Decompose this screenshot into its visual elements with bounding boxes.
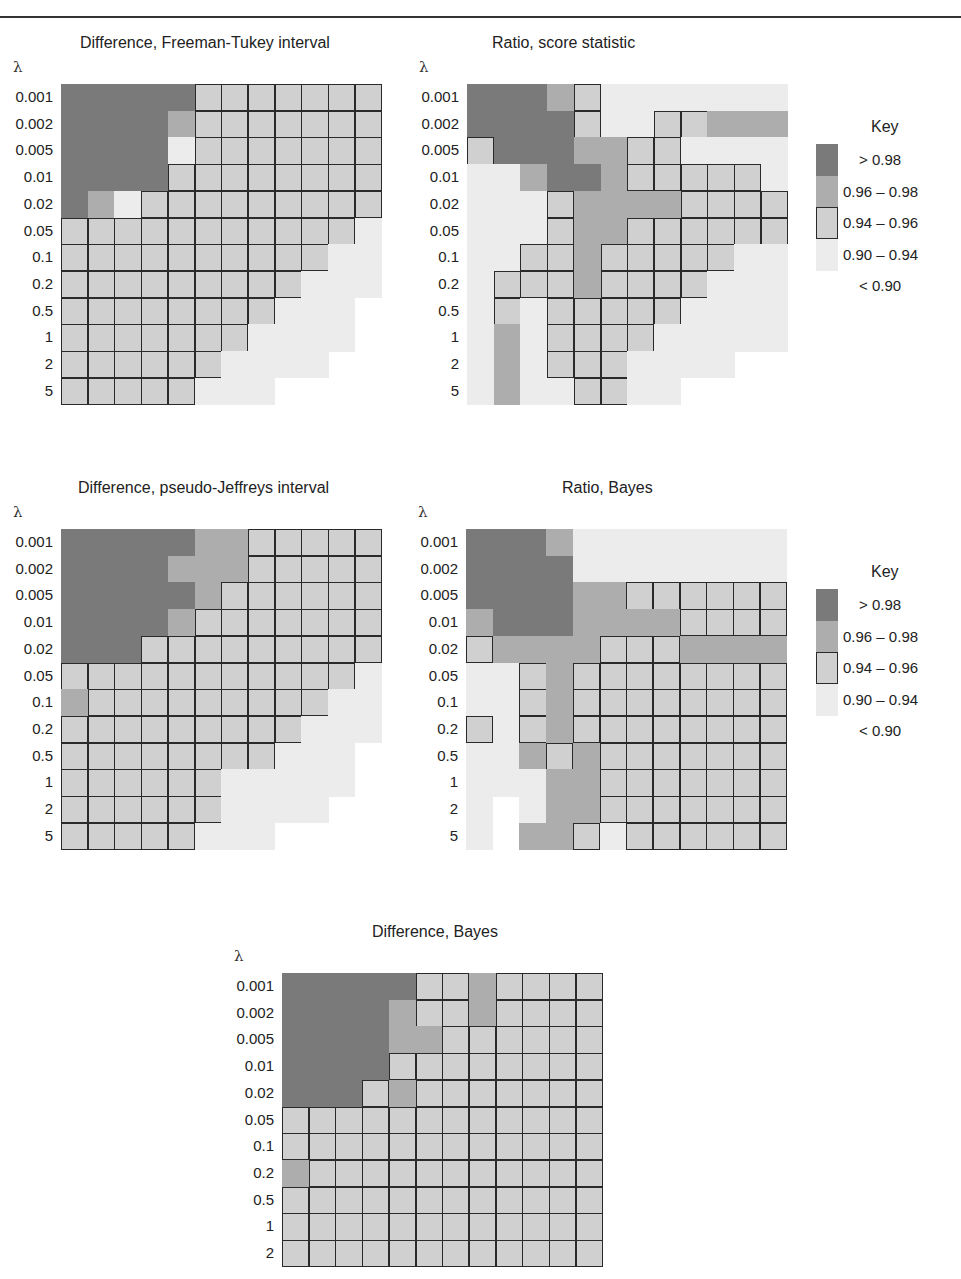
heatmap-cell [141,769,168,796]
heatmap-cell [600,582,627,609]
heatmap-cell [355,663,382,690]
heatmap-cell [328,191,355,218]
heatmap-cell [282,1213,309,1240]
y-tick-label: 0.002 [1,115,53,132]
heatmap-cell [519,636,546,663]
y-tick-label: 0.5 [1,302,53,319]
heatmap-cell [282,1187,309,1214]
heatmap-cell [734,191,761,218]
heatmap-cell [221,137,248,164]
heatmap-cell [88,823,115,850]
heatmap-cell [335,1160,362,1187]
heatmap-cell [522,1053,549,1080]
heatmap-cell [335,1133,362,1160]
heatmap-cell [275,663,302,690]
heatmap-cell [221,582,248,609]
heatmap-cell [221,218,248,245]
heatmap-cell [301,556,328,583]
heatmap-cell [416,1240,443,1267]
heatmap-cell [168,743,195,770]
heatmap-cell [546,823,573,850]
heatmap-cell [416,973,443,1000]
heatmap-cell [522,1026,549,1053]
heatmap-cell [195,663,222,690]
heatmap-cell [275,556,302,583]
heatmap-cell [335,1213,362,1240]
heatmap-cell [496,1213,523,1240]
heatmap-cell [88,324,115,351]
heatmap-cell [275,191,302,218]
header-rule [0,16,961,18]
heatmap-cell [466,689,493,716]
heatmap-cell [328,743,355,770]
heatmap-cell [114,636,141,663]
y-tick-label: 1 [222,1217,274,1234]
heatmap-cell [466,609,493,636]
heatmap-cell [355,111,382,138]
heatmap-cell [733,556,760,583]
heatmap-cell [248,351,275,378]
heatmap-cell [494,378,521,405]
heatmap-cell [680,823,707,850]
heatmap-cell [601,84,628,111]
heatmap-cell [248,164,275,191]
heatmap-cell [328,324,355,351]
y-tick-label: 2 [407,355,459,372]
heatmap-cell [88,769,115,796]
legend-swatch [816,684,838,716]
heatmap-cell [114,743,141,770]
panel-title: Difference, Freeman-Tukey interval [80,34,330,52]
heatmap-cell [494,324,521,351]
heatmap-cell [680,663,707,690]
heatmap-cell [626,529,653,556]
heatmap-cell [195,111,222,138]
heatmap-cell [168,351,195,378]
heatmap-cell [760,582,787,609]
heatmap-cell [309,1026,336,1053]
heatmap-cell [141,191,168,218]
heatmap-cell [546,796,573,823]
heatmap-cell [195,351,222,378]
y-tick-label: 0.001 [1,88,53,105]
heatmap-cell [168,823,195,850]
y-tick-label: 0.2 [406,720,458,737]
heatmap-cell [654,298,681,325]
heatmap-cell [653,823,680,850]
heatmap-cell [493,636,520,663]
heatmap-cell [654,244,681,271]
y-tick-label: 0.05 [1,222,53,239]
heatmap-cell [114,663,141,690]
legend-label: 0.90 – 0.94 [843,246,918,263]
heatmap-cell [761,218,788,245]
heatmap-cell [706,663,733,690]
heatmap-cell [549,973,576,1000]
heatmap-cell [248,769,275,796]
heatmap-cell [600,529,627,556]
y-tick-label: 2 [406,800,458,817]
heatmap-cell [493,769,520,796]
legend-title: Key [871,118,899,136]
heatmap-cell [248,716,275,743]
heatmap-cell [389,1187,416,1214]
heatmap-cell [114,84,141,111]
heatmap-cell [355,137,382,164]
heatmap-cell [442,1026,469,1053]
y-axis-label: λ [418,503,428,521]
heatmap-cell [141,609,168,636]
heatmap-cell [466,743,493,770]
heatmap-cell [195,556,222,583]
heatmap-cell [733,716,760,743]
heatmap-cell [547,298,574,325]
heatmap-cell [362,1133,389,1160]
heatmap-cell [88,378,115,405]
heatmap-cell [362,1213,389,1240]
heatmap-cell [576,1080,603,1107]
heatmap-cell [362,1187,389,1214]
heatmap-cell [761,324,788,351]
heatmap-cell [467,271,494,298]
heatmap-cell [275,796,302,823]
heatmap-cell [301,298,328,325]
heatmap-cell [494,271,521,298]
heatmap-cell [707,137,734,164]
legend-swatch [816,589,838,621]
